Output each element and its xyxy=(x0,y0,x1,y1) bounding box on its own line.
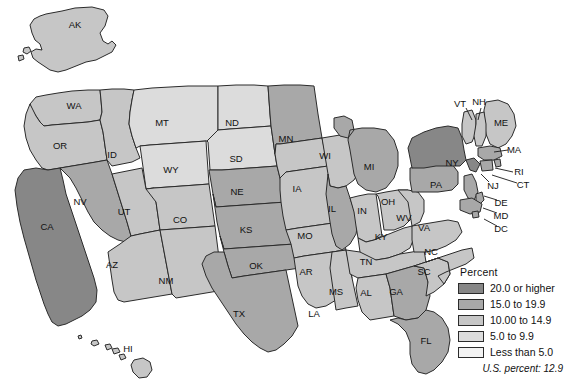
state-label-tn: TN xyxy=(360,256,373,267)
state-label-nc: NC xyxy=(424,246,438,257)
legend-swatch-0 xyxy=(458,283,484,294)
state-label-mo: MO xyxy=(297,230,312,241)
state-label-nv: NV xyxy=(73,196,87,207)
state-ri[interactable]: Rhode Island xyxy=(494,159,501,167)
state-label-ms: MS xyxy=(329,286,343,297)
legend-item-3[interactable]: 5.0 to 9.9 xyxy=(458,329,565,344)
state-label-ky: KY xyxy=(375,231,388,242)
state-label-ri: RI xyxy=(514,166,524,177)
state-dc[interactable]: District of Columbia xyxy=(472,211,479,218)
state-label-sd: SD xyxy=(229,153,242,164)
legend-swatch-3 xyxy=(458,331,484,342)
state-label-wy: WY xyxy=(163,164,179,175)
legend-item-4[interactable]: Less than 5.0 xyxy=(458,345,565,360)
legend-item-2[interactable]: 10.00 to 14.9 xyxy=(458,313,565,328)
state-label-fl: FL xyxy=(420,335,431,346)
state-nh[interactable]: New Hampshire xyxy=(474,112,486,146)
state-label-ny: NY xyxy=(445,157,459,168)
legend-label-1: 15.0 to 19.9 xyxy=(490,299,545,310)
state-label-la: LA xyxy=(308,308,320,319)
legend-swatch-4 xyxy=(458,347,484,358)
state-label-ok: OK xyxy=(249,260,263,271)
state-label-nd: ND xyxy=(225,117,239,128)
legend-swatch-1 xyxy=(458,299,484,310)
state-label-az: AZ xyxy=(106,259,118,270)
state-label-il: IL xyxy=(328,203,336,214)
state-ct[interactable]: Connecticut xyxy=(480,160,493,171)
legend-label-4: Less than 5.0 xyxy=(490,347,553,358)
state-label-md: MD xyxy=(494,210,509,221)
state-label-ga: GA xyxy=(389,286,403,297)
state-label-id: ID xyxy=(107,149,117,160)
state-label-vt: VT xyxy=(454,98,466,109)
state-label-ia: IA xyxy=(293,183,303,194)
state-label-wi: WI xyxy=(319,150,331,161)
state-label-ma: MA xyxy=(507,144,522,155)
state-ak[interactable]: Alaska xyxy=(18,7,116,72)
state-label-ca: CA xyxy=(40,221,54,232)
state-label-pa: PA xyxy=(430,179,443,190)
map-legend: Percent 20.0 or higher15.0 to 19.910.00 … xyxy=(458,266,565,374)
state-label-va: VA xyxy=(418,222,431,233)
state-label-nj: NJ xyxy=(487,180,499,191)
state-label-wv: WV xyxy=(396,212,412,223)
legend-label-3: 5.0 to 9.9 xyxy=(490,331,534,342)
state-hi[interactable]: Hawaii xyxy=(78,335,152,378)
legend-item-0[interactable]: 20.0 or higher xyxy=(458,281,565,296)
state-label-mt: MT xyxy=(155,117,169,128)
legend-label-0: 20.0 or higher xyxy=(490,283,555,294)
state-label-or: OR xyxy=(53,140,67,151)
state-label-nh: NH xyxy=(472,96,486,107)
state-shapes-layer: AlaskaHawaiiWashingtonOregonCaliforniaNe… xyxy=(15,7,516,378)
state-label-ks: KS xyxy=(240,224,253,235)
state-label-al: AL xyxy=(360,287,372,298)
state-label-wa: WA xyxy=(67,100,83,111)
state-label-sc: SC xyxy=(417,266,430,277)
legend-label-2: 10.00 to 14.9 xyxy=(490,315,551,326)
legend-title: Percent xyxy=(460,266,565,278)
state-label-me: ME xyxy=(494,117,508,128)
legend-rows: 20.0 or higher15.0 to 19.910.00 to 14.95… xyxy=(458,281,565,360)
state-label-tx: TX xyxy=(233,308,246,319)
state-label-co: CO xyxy=(173,214,187,225)
state-label-nm: NM xyxy=(159,275,174,286)
map-figure: AlaskaHawaiiWashingtonOregonCaliforniaNe… xyxy=(0,0,567,389)
state-label-dc: DC xyxy=(494,223,508,234)
state-label-ct: CT xyxy=(517,179,530,190)
state-label-hi: HI xyxy=(123,343,133,354)
state-mt[interactable]: Montana xyxy=(129,86,218,148)
legend-item-1[interactable]: 15.0 to 19.9 xyxy=(458,297,565,312)
state-label-ut: UT xyxy=(118,206,131,217)
state-label-mi: MI xyxy=(364,161,375,172)
us-percent-footnote: U.S. percent: 12.9 xyxy=(458,363,565,374)
state-label-in: IN xyxy=(357,205,367,216)
state-label-ak: AK xyxy=(69,19,82,30)
legend-swatch-2 xyxy=(458,315,484,326)
state-ne[interactable]: Nebraska xyxy=(209,166,286,207)
state-label-ne: NE xyxy=(230,186,243,197)
state-label-oh: OH xyxy=(381,196,395,207)
state-ma[interactable]: Massachusetts xyxy=(478,146,502,160)
state-label-mn: MN xyxy=(279,133,294,144)
state-label-ar: AR xyxy=(299,266,312,277)
state-label-de: DE xyxy=(494,197,507,208)
state-vt[interactable]: Vermont xyxy=(462,110,476,144)
